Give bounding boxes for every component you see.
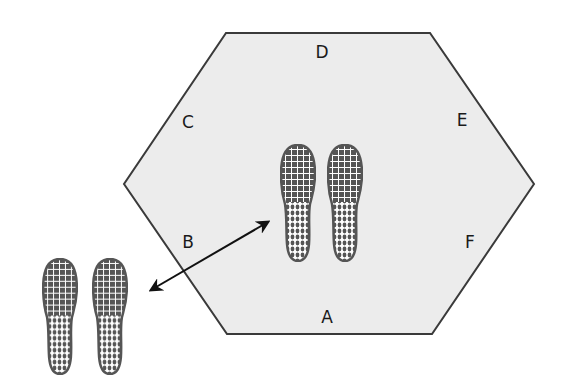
label-d: D xyxy=(315,42,328,62)
label-e: E xyxy=(457,110,468,130)
hexagon-drill-diagram: D C E B F A xyxy=(0,0,567,388)
label-f: F xyxy=(465,232,475,252)
outside-footprints-icon xyxy=(43,259,127,374)
label-a: A xyxy=(321,307,333,327)
label-c: C xyxy=(182,112,194,132)
label-b: B xyxy=(182,232,194,252)
